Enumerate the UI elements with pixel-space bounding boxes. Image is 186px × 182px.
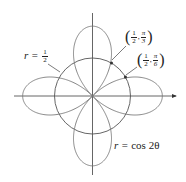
circle-label-leader: [48, 64, 60, 72]
rose-eq-rhs: cos 2θ: [131, 139, 159, 151]
circle-eq-den: 2: [42, 57, 48, 64]
intersection-point-pi-6: [124, 76, 127, 79]
close-paren: ): [159, 52, 164, 68]
open-paren: (: [137, 52, 142, 68]
point2-r: 12: [143, 53, 149, 68]
point2-leader: [126, 67, 137, 75]
rose-equation-label: r = cos 2θ: [114, 140, 159, 151]
rose-eq-lhs: r =: [114, 139, 131, 151]
point-label-pi-3: ( 12, π3 ): [125, 29, 153, 45]
point2-r-den: 2: [143, 61, 149, 68]
circle-equation-label: r = 12: [24, 49, 49, 64]
circle-eq-fraction: 12: [42, 49, 48, 64]
point1-r: 12: [131, 30, 137, 45]
point1-leader: [112, 46, 126, 60]
circle-eq-lhs: r =: [24, 49, 41, 61]
point1-r-den: 2: [131, 38, 137, 45]
polar-diagram: [0, 0, 186, 182]
point2-theta-den: 6: [153, 61, 159, 68]
point1-theta: π3: [141, 30, 147, 45]
point2-theta: π6: [153, 53, 159, 68]
point1-theta-den: 3: [141, 38, 147, 45]
intersection-point-pi-3: [110, 62, 113, 65]
point-label-pi-6: ( 12, π6 ): [137, 52, 165, 68]
open-paren: (: [125, 29, 130, 45]
close-paren: ): [147, 29, 152, 45]
